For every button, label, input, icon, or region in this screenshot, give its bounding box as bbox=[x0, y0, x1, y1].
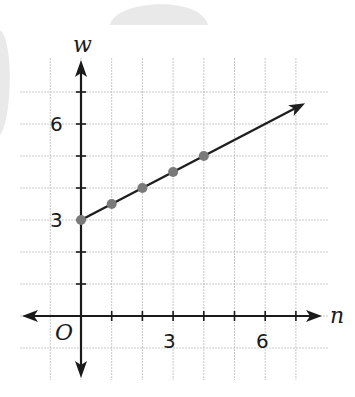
origin-label: O bbox=[55, 320, 73, 345]
background-shape bbox=[110, 4, 208, 25]
chart: w n O 3 6 3 6 bbox=[0, 0, 355, 397]
data-series bbox=[76, 103, 305, 225]
data-point bbox=[137, 183, 147, 193]
x-tick-label-3: 3 bbox=[163, 329, 176, 353]
data-point bbox=[199, 151, 209, 161]
y-tick-label-3: 3 bbox=[50, 208, 63, 232]
background-shape bbox=[0, 30, 10, 135]
data-point bbox=[168, 167, 178, 177]
y-axis-label: w bbox=[73, 32, 92, 57]
data-point bbox=[76, 215, 86, 225]
x-axis-label: n bbox=[330, 303, 344, 328]
x-tick-label-6: 6 bbox=[256, 329, 269, 353]
data-point bbox=[107, 199, 117, 209]
y-tick-label-6: 6 bbox=[50, 112, 63, 136]
